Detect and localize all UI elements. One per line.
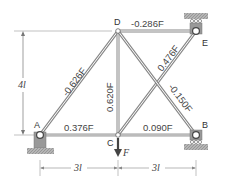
load-label: F [122, 147, 130, 158]
load-arrow-icon [114, 138, 122, 157]
node-e-label: E [202, 38, 208, 48]
force-cd-label: 0.620F [104, 82, 115, 112]
joint-d [116, 29, 121, 34]
force-cb-label: 0.090F [143, 122, 173, 133]
height-dim-label: 4l [18, 79, 26, 90]
node-d-label: D [114, 17, 121, 27]
height-dimension [14, 31, 112, 135]
truss-svg: 4l [0, 0, 225, 187]
force-db-label: -0.150F [166, 82, 195, 115]
node-a-label: A [34, 120, 40, 130]
truss-diagram: 4l [0, 0, 225, 187]
span-left-label: 3l [73, 162, 82, 173]
joint-c [116, 133, 121, 138]
node-c-label: C [107, 138, 114, 148]
span-dimension [40, 160, 196, 176]
force-ac-label: 0.376F [64, 122, 94, 133]
node-b-label: B [202, 120, 208, 130]
support-b-roller [184, 130, 208, 150]
force-de-label: -0.286F [131, 18, 164, 29]
span-right-label: 3l [151, 162, 160, 173]
force-ad-label: -0.626F [60, 65, 89, 98]
